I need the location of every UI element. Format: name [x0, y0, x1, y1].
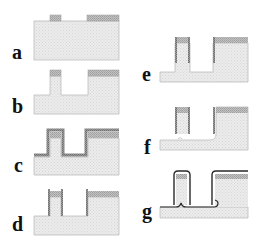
- panel-b: [34, 70, 119, 114]
- panel-e: [160, 37, 248, 82]
- cross-section-diagram: [0, 0, 259, 245]
- panel-d: [34, 189, 119, 235]
- panel-c: [34, 130, 119, 175]
- panel-a: [34, 15, 119, 60]
- panel-g: [160, 171, 248, 218]
- panel-f: [160, 107, 248, 150]
